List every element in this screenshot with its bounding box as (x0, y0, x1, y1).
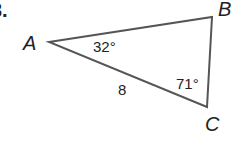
triangle-abc (49, 17, 212, 107)
vertex-a-label: A (23, 33, 36, 53)
vertex-b-label: B (218, 0, 231, 19)
angle-a-label: 32° (93, 39, 116, 54)
vertex-c-label: C (205, 114, 219, 134)
angle-c-label: 71° (176, 76, 199, 91)
side-ac-length: 8 (118, 82, 126, 97)
